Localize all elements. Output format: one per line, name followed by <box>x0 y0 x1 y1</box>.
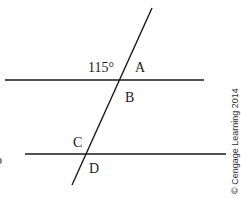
copyright-text: © Cengage Learning 2014 <box>230 88 240 194</box>
edge-fragment-text: o <box>0 153 2 167</box>
label-d: D <box>89 161 99 176</box>
label-c: C <box>73 135 82 150</box>
diagram-canvas: 115° A B C D o © Cengage Learning 2014 <box>0 0 241 198</box>
angle-label-115: 115° <box>88 60 114 75</box>
label-b: B <box>125 90 134 105</box>
transversal-line <box>72 8 152 185</box>
label-a: A <box>135 60 146 75</box>
